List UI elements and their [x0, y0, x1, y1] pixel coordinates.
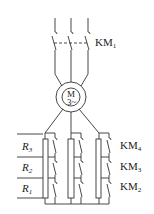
km3-label: KM3 — [120, 160, 142, 174]
motor-phase-label: 3~ — [67, 97, 77, 107]
motor-feeds — [55, 50, 88, 86]
shorting-contacts — [53, 133, 111, 204]
rotor-leads — [45, 109, 99, 133]
km2-label: KM2 — [120, 180, 142, 194]
km1-contacts — [52, 32, 90, 50]
r2-label: R2 — [21, 161, 33, 175]
km4-label: KM4 — [120, 139, 142, 153]
r3-label: R3 — [21, 140, 33, 154]
resistor-banks — [43, 133, 101, 204]
supply-lines — [55, 18, 88, 32]
circuit-diagram: KM1 M 3~ R3 R2 R1 KM4 KM3 KM2 — [0, 0, 154, 214]
km1-label: KM1 — [95, 36, 117, 50]
r1-label: R1 — [21, 182, 32, 196]
